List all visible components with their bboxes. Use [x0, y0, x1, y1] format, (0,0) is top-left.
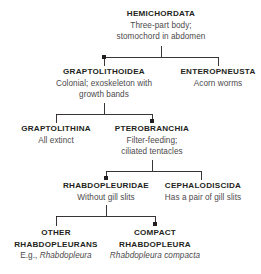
node-title-enteropneusta: ENTEROPNEUSTA [162, 66, 261, 78]
node-desc-pterobranchia-line1: Filter-feeding; [96, 135, 208, 147]
node-compact-rhabdopleura: COMPACT RHABDOPLEURA Rhabdopleura compac… [97, 227, 213, 262]
node-title-pterobranchia: PTEROBRANCHIA [96, 123, 208, 135]
node-title-cephalodiscida: CEPHALODISCIDA [145, 180, 261, 192]
node-desc-pterobranchia-line2: ciliated tentacles [96, 146, 208, 158]
node-desc-compact-rhabdopleura-species: Rhabdopleura compacta [97, 250, 213, 262]
node-desc-graptolithoidea-line1: Colonial; exoskeleton with [26, 78, 182, 90]
node-desc-other-rhabdopleurans-prefix: E.g., [20, 251, 39, 260]
node-pterobranchia: PTEROBRANCHIA Filter-feeding; ciliated t… [96, 123, 208, 158]
node-hemichordata: HEMICHORDATA Three-part body; stomochord… [86, 8, 236, 43]
node-graptolithoidea: GRAPTOLITHOIDEA Colonial; exoskeleton wi… [26, 66, 182, 101]
node-cephalodiscida: CEPHALODISCIDA Has a pair of gill slits [145, 180, 261, 203]
node-title-hemichordata: HEMICHORDATA [86, 8, 236, 20]
node-title-compact-rhabdopleura-line2: RHABDOPLEURA [97, 239, 213, 251]
node-desc-graptolithoidea-line2: growth bands [26, 89, 182, 101]
node-title-compact-rhabdopleura-line1: COMPACT [97, 227, 213, 239]
node-enteropneusta: ENTEROPNEUSTA Acorn worms [162, 66, 261, 89]
clade-marker-level4 [153, 222, 157, 226]
cladogram-diagram: HEMICHORDATA Three-part body; stomochord… [0, 0, 261, 274]
node-desc-hemichordata-line2: stomochord in abdomen [86, 31, 236, 43]
clade-marker-level1 [102, 55, 106, 59]
node-desc-hemichordata-line1: Three-part body; [86, 20, 236, 32]
node-title-graptolithoidea: GRAPTOLITHOIDEA [26, 66, 182, 78]
node-desc-enteropneusta-line1: Acorn worms [162, 78, 261, 90]
node-desc-other-rhabdopleurans-species: Rhabdopleura [40, 251, 92, 260]
node-desc-cephalodiscida-line1: Has a pair of gill slits [145, 192, 261, 204]
